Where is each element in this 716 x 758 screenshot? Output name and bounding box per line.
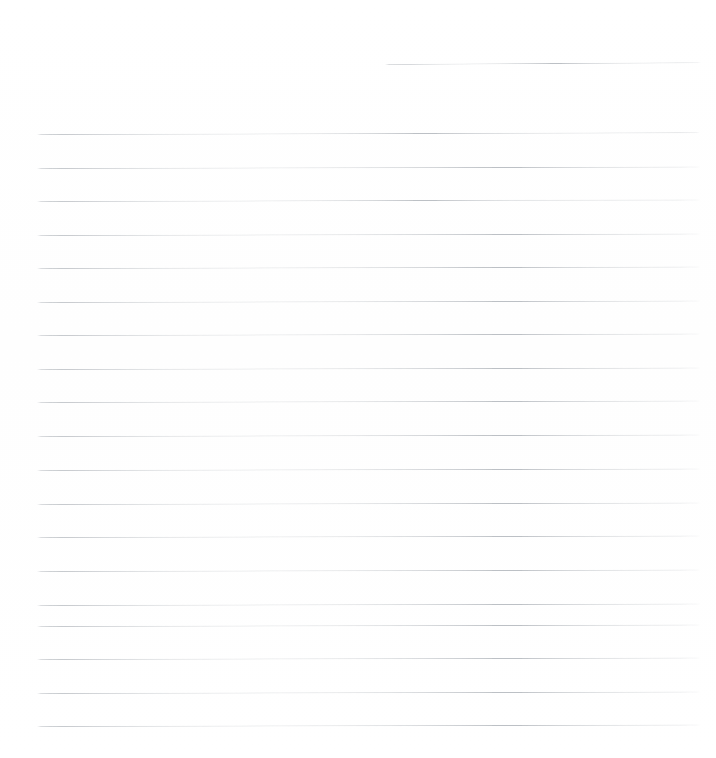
ruled-line	[37, 502, 700, 504]
ruled-line	[37, 266, 700, 269]
paper-surface	[0, 0, 716, 758]
ruled-line	[37, 725, 700, 727]
ruled-line	[37, 233, 700, 235]
ruled-line	[37, 536, 700, 538]
ruled-line	[37, 367, 700, 369]
ruled-line	[37, 132, 700, 135]
ruled-line	[37, 569, 700, 571]
ruled-line	[37, 658, 700, 660]
ruled-line	[37, 468, 700, 470]
ruled-line	[37, 300, 700, 302]
ruled-line	[37, 603, 700, 605]
ruled-line	[37, 401, 700, 403]
ruled-line	[37, 624, 700, 626]
ruled-line-partial	[385, 62, 701, 65]
ruled-line	[37, 691, 700, 693]
paper-page	[0, 0, 716, 758]
ruled-line	[37, 166, 700, 169]
ruled-line	[37, 434, 700, 437]
ruled-line	[37, 333, 700, 336]
ruled-line	[37, 199, 700, 202]
